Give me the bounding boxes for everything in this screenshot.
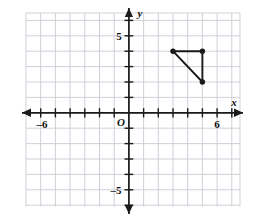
- triangle-vertex-c: [200, 79, 205, 84]
- y-axis-arrow-up: [125, 8, 133, 17]
- coordinate-plane-svg: x y O –6 6 5 –5: [0, 0, 268, 221]
- y-tick-label-5: 5: [116, 30, 122, 42]
- x-tick-label-neg6: –6: [36, 118, 49, 130]
- x-axis-arrow-left: [22, 109, 31, 117]
- y-axis: [125, 8, 134, 214]
- grid-horizontal-lines: [26, 13, 240, 205]
- coordinate-plane-figure: x y O –6 6 5 –5: [0, 0, 268, 221]
- grid-lines: [26, 13, 240, 207]
- y-axis-arrow-down: [125, 205, 133, 214]
- x-axis-label: x: [230, 96, 237, 108]
- triangle-vertex-b: [200, 49, 205, 54]
- x-axis: [22, 108, 243, 117]
- x-axis-arrow-right: [234, 109, 243, 117]
- origin-label: O: [117, 116, 125, 128]
- triangle-vertex-a: [170, 49, 175, 54]
- x-tick-label-6: 6: [214, 118, 220, 130]
- y-tick-label-neg5: –5: [110, 184, 123, 196]
- grid-vertical-lines: [26, 13, 240, 207]
- y-axis-label: y: [136, 7, 143, 19]
